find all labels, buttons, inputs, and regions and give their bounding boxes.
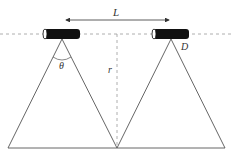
left-sensor-icon: [43, 29, 80, 39]
height-label: r: [108, 64, 112, 75]
sensor-coverage-diagram: L θ r D: [0, 0, 232, 161]
angle-label: θ: [59, 60, 64, 71]
right-sensor-icon: [152, 29, 189, 39]
left-cone: [8, 39, 117, 148]
diagram-canvas: L θ r D: [0, 0, 232, 161]
detector-label: D: [180, 41, 189, 52]
distance-label: L: [112, 6, 119, 18]
right-cone: [117, 39, 225, 148]
